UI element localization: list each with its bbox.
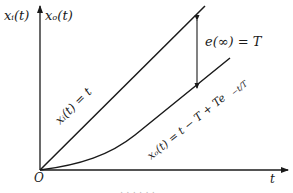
x-axis-label: t [270,172,275,186]
origin-label: O [34,171,44,185]
input-curve-label: xᵢ(t) = t [52,85,94,127]
output-curve-exponent: −t/T [230,79,250,98]
steady-state-error-label: e(∞) = T [205,34,263,49]
figure-caption: · · · · · · [120,187,155,193]
y-axis-label-output: xₒ(t) [45,8,73,23]
input-ramp-line [40,6,205,170]
output-curve-label: xₒ(t) = t − T + Te [145,91,229,162]
ramp-response-diagram: xᵢ(t) xₒ(t) t O xᵢ(t) = t xₒ(t) = t − T … [0,0,293,193]
y-axis-label-input: xᵢ(t) [4,8,29,23]
